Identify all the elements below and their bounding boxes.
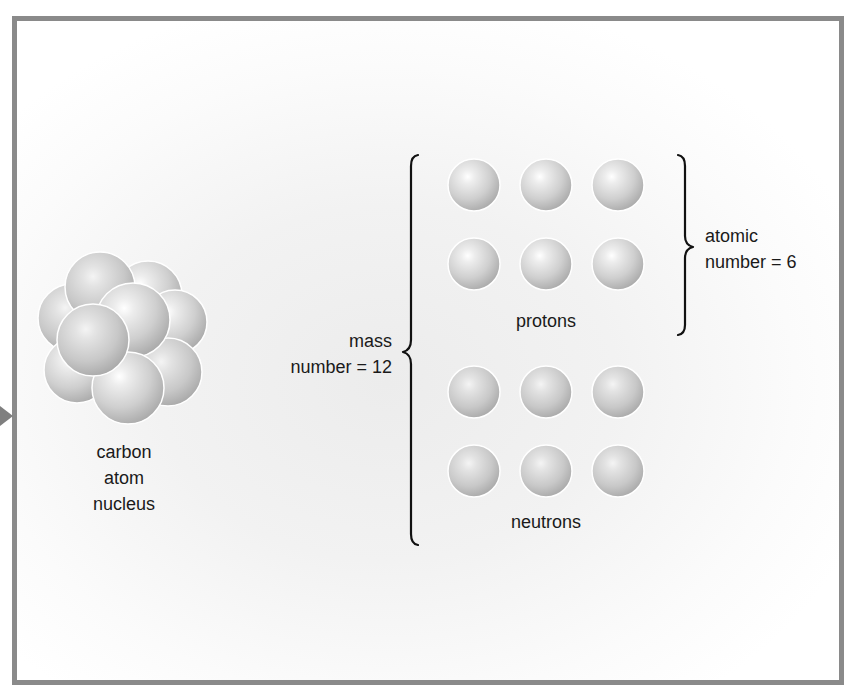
carbon-nucleus-cluster <box>38 252 207 424</box>
proton-sphere <box>592 159 644 211</box>
mass-number-label-line: mass <box>232 328 392 354</box>
nucleus-label: carbon atom nucleus <box>64 439 184 517</box>
proton-sphere <box>448 238 500 290</box>
proton-sphere <box>520 159 572 211</box>
mass-number-brace-icon <box>403 155 418 545</box>
proton-sphere <box>520 238 572 290</box>
nucleus-label-line: atom <box>64 465 184 491</box>
nucleus-label-line: nucleus <box>64 491 184 517</box>
atomic-number-label: atomic number = 6 <box>705 223 825 275</box>
proton-sphere <box>592 238 644 290</box>
mass-number-label-line: number = 12 <box>232 354 392 380</box>
protons-label: protons <box>486 308 606 334</box>
atomic-number-brace-icon <box>678 155 693 335</box>
neutrons-grid <box>448 366 644 497</box>
neutron-sphere <box>448 366 500 418</box>
mass-number-label: mass number = 12 <box>232 328 392 380</box>
neutron-sphere <box>520 445 572 497</box>
neutron-sphere <box>592 445 644 497</box>
atomic-number-label-line: atomic <box>705 223 825 249</box>
neutron-sphere <box>520 366 572 418</box>
neutron-sphere <box>592 366 644 418</box>
neutron-sphere <box>448 445 500 497</box>
atomic-number-label-line: number = 6 <box>705 249 825 275</box>
nucleus-label-line: carbon <box>64 439 184 465</box>
diagram-artwork <box>0 0 847 694</box>
neutrons-label: neutrons <box>486 509 606 535</box>
nucleus-sphere <box>57 304 129 376</box>
protons-grid <box>448 159 644 290</box>
proton-sphere <box>448 159 500 211</box>
